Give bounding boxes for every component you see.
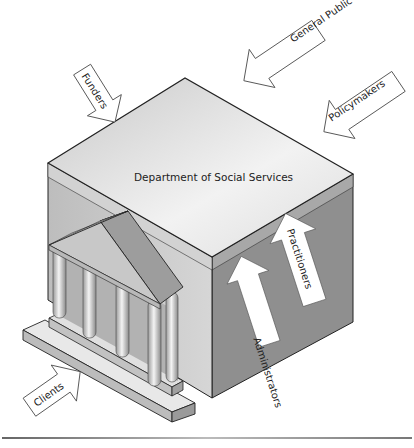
diagram-canvas: Department of Social Services Funders Ge… [0, 0, 414, 448]
arrow-general-public: General Public [231, 0, 368, 100]
arrow-shape [311, 62, 411, 150]
stakeholder-diagram: Department of Social Services Funders Ge… [0, 0, 414, 448]
arrow-policymakers: Policymakers [311, 62, 411, 150]
building-label: Department of Social Services [134, 171, 293, 183]
column [148, 300, 161, 386]
column [116, 281, 129, 357]
bottom-divider [2, 437, 412, 439]
column [166, 292, 178, 382]
